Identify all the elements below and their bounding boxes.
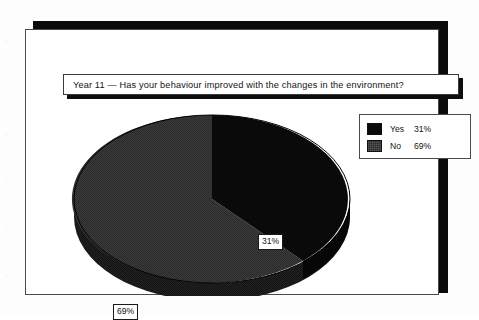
pie-data-label-no: 69%: [113, 304, 138, 320]
pie-data-label-yes: 31%: [258, 234, 283, 250]
chart-legend: Yes 31% No 69%: [359, 114, 471, 159]
legend-label-yes: Yes: [390, 124, 414, 134]
chart-title-box: Year 11 — Has your behaviour improved wi…: [63, 74, 459, 95]
legend-label-no: No: [390, 141, 414, 151]
legend-item-yes: Yes 31%: [367, 120, 470, 137]
gray-swatch-icon: [367, 140, 382, 152]
legend-item-no: No 69%: [367, 137, 470, 154]
page-title: Year 11 — Has your behaviour improved wi…: [73, 80, 404, 90]
pie-chart: 31% 69%: [71, 106, 356, 296]
pie-chart-svg: [71, 106, 356, 296]
black-swatch-icon: [367, 123, 382, 135]
chart-panel: Year 11 — Has your behaviour improved wi…: [25, 29, 439, 295]
legend-value-yes: 31%: [414, 124, 431, 134]
legend-value-no: 69%: [414, 141, 431, 151]
